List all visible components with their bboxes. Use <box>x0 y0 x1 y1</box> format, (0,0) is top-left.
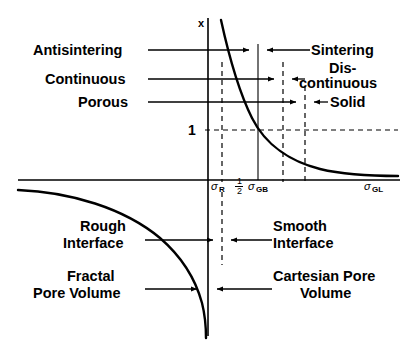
x-tick-sigma-r-base: σ <box>211 180 218 192</box>
sintering-regime-diagram: x 1 Antisintering Sintering Continuous <box>0 0 407 346</box>
figure-root: x 1 Antisintering Sintering Continuous <box>0 0 407 346</box>
x-tick-one-half: 1 2 <box>235 176 243 196</box>
label-sintering: Sintering <box>311 42 374 58</box>
label-discontinuous-line2: continuous <box>299 75 377 91</box>
upper-panel: x 1 Antisintering Sintering Continuous <box>18 17 400 182</box>
y-axis-name: x <box>198 17 205 29</box>
label-fractal-pore-volume-line1: Fractal <box>67 268 115 284</box>
x-tick-sigma-gb-sub: GB <box>256 185 268 194</box>
label-fractal-pore-volume-line2: Pore Volume <box>33 285 121 301</box>
lower-curve <box>18 190 206 338</box>
label-continuous: Continuous <box>45 71 126 87</box>
label-solid: Solid <box>330 94 365 110</box>
label-porous: Porous <box>78 94 128 110</box>
lower-panel: Rough Interface Smooth Interface Fractal… <box>18 180 375 338</box>
label-rough-interface-line1: Rough <box>80 218 126 234</box>
label-smooth-interface-line1: Smooth <box>273 218 327 234</box>
x-tick-sigma-gb-base: σ <box>248 180 255 192</box>
x-tick-sigma-r: σ R <box>211 180 225 194</box>
label-rough-interface-line2: Interface <box>63 235 123 251</box>
x-tick-sigma-gl-sub: GL <box>372 185 383 194</box>
x-tick-one-half-denominator: 2 <box>237 186 242 196</box>
label-discontinuous-line1: Dis- <box>329 60 357 76</box>
label-cartesian-pore-volume-line2: Volume <box>300 285 351 301</box>
label-smooth-interface-line2: Interface <box>273 235 333 251</box>
x-tick-sigma-gl-base: σ <box>364 180 371 192</box>
label-antisintering: Antisintering <box>33 42 122 58</box>
x-tick-sigma-gb: σ GB <box>248 180 268 194</box>
x-tick-sigma-gl: σ GL <box>364 180 383 194</box>
y-tick-label-one: 1 <box>188 122 196 138</box>
label-cartesian-pore-volume-line1: Cartesian Pore <box>273 268 375 284</box>
x-tick-one-half-numerator: 1 <box>237 176 242 186</box>
x-tick-labels: σ R 1 2 σ GB σ GL <box>211 176 383 196</box>
